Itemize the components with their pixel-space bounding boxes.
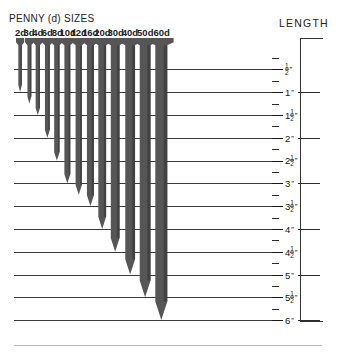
length-label: 512” [285, 291, 298, 304]
length-label: 6” [285, 315, 294, 326]
ruler-tick-major [272, 297, 283, 298]
length-label: 412” [285, 245, 298, 258]
size-label-40d: 40d [122, 27, 138, 38]
length-label: 2” [285, 132, 294, 143]
ruler-tick-minor [272, 286, 279, 287]
gridline [14, 320, 272, 321]
ruler-tick-minor [272, 240, 279, 241]
length-label: 4” [285, 223, 294, 234]
length-label: 5” [285, 269, 294, 280]
ruler-tick-minor [272, 172, 279, 173]
page-title: PENNY (d) SIZES [9, 13, 94, 24]
ruler-tick-major [272, 92, 283, 93]
ruler-tick-major [272, 161, 283, 162]
ruler-tick-minor [272, 104, 279, 105]
ruler-tick-major [272, 252, 283, 253]
ruler-tick-minor [272, 195, 279, 196]
length-label: 112” [285, 109, 298, 122]
ruler-tick-major [272, 69, 283, 70]
length-axis-title: LENGTH [279, 17, 329, 29]
size-label-60d: 60d [154, 27, 170, 38]
ruler-tick-major [272, 183, 283, 184]
ruler-tick-major [272, 206, 283, 207]
nail-60d [147, 38, 176, 322]
ruler-tick-minor [272, 126, 279, 127]
ruler-tick-minor [272, 218, 279, 219]
ruler-tick-minor [272, 58, 279, 59]
ruler-tick-major [272, 229, 283, 230]
length-label: 3” [285, 178, 294, 189]
ruler-tick-major [272, 115, 283, 116]
ruler-tick-minor [272, 149, 279, 150]
length-label: 12” [285, 63, 292, 76]
length-label: 1” [285, 87, 294, 98]
ruler-tick-minor [272, 309, 279, 310]
ruler-tick-major [272, 275, 283, 276]
ruler-tick-major [272, 138, 283, 139]
ruler-tick-major [272, 320, 283, 321]
ruler-tick-minor [272, 263, 279, 264]
ruler-tick-minor [272, 81, 279, 82]
size-label-50d: 50d [137, 27, 153, 38]
length-bracket [300, 38, 323, 323]
length-label: 212” [285, 154, 298, 167]
bottom-divider [14, 345, 322, 346]
length-label: 312” [285, 200, 298, 213]
nail-size-chart: PENNY (d) SIZES LENGTH 2d3d4d6d8d10d12d1… [0, 0, 338, 362]
